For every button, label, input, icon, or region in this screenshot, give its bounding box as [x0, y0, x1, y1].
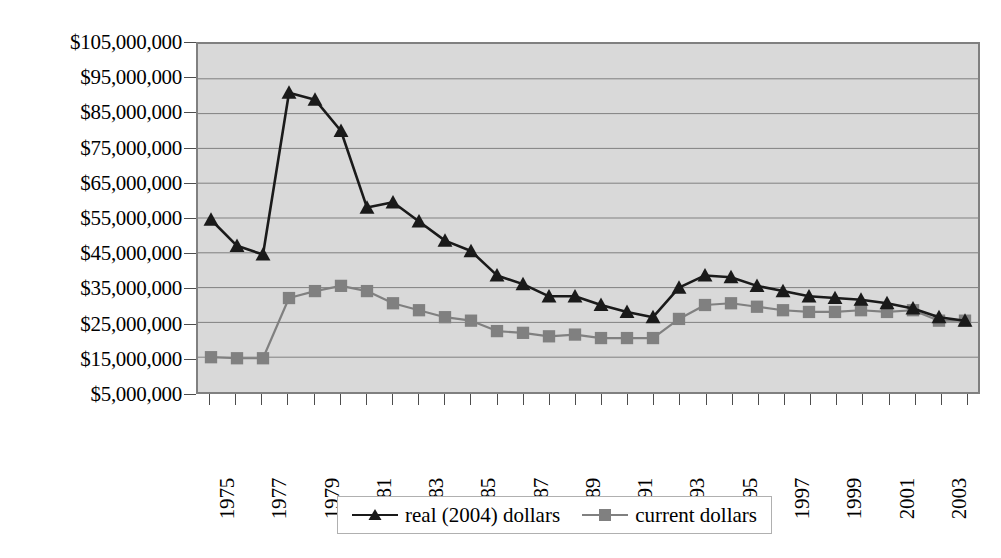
x-axis-tick-label: 2003 — [949, 478, 970, 519]
square-marker-icon — [283, 292, 295, 304]
y-axis-tick-label: $85,000,000 — [80, 102, 182, 123]
square-marker-icon — [257, 352, 269, 364]
y-axis-tick-mark — [184, 112, 196, 113]
x-axis: 1975197719791981198319851987198919911993… — [196, 406, 980, 486]
x-axis-tick-mark — [209, 394, 210, 405]
series-line — [211, 93, 965, 321]
x-axis-tick-mark — [418, 394, 419, 405]
y-axis-tick-label: $65,000,000 — [80, 172, 182, 193]
x-axis-tick-mark — [653, 394, 654, 405]
y-axis-tick-mark — [184, 77, 196, 78]
square-marker-icon — [777, 304, 789, 316]
y-axis-tick-marks — [184, 42, 196, 394]
square-marker-icon — [595, 332, 607, 344]
y-axis-tick-mark — [184, 288, 196, 289]
x-axis-tick-mark — [575, 394, 576, 405]
square-marker-icon — [699, 299, 711, 311]
square-marker-icon — [855, 304, 867, 316]
square-marker-icon — [725, 297, 737, 309]
plot-svg — [198, 44, 978, 392]
x-axis-tick-mark — [497, 394, 498, 405]
y-axis-tick-label: $5,000,000 — [90, 384, 182, 405]
x-axis-tick-mark — [235, 394, 236, 405]
y-axis-tick-mark — [184, 218, 196, 219]
square-marker-icon — [413, 304, 425, 316]
x-axis-tick-mark — [732, 394, 733, 405]
y-axis-tick-label: $95,000,000 — [80, 67, 182, 88]
y-axis-tick-mark — [184, 42, 196, 43]
x-axis-tick-mark — [810, 394, 811, 405]
square-marker-icon — [309, 285, 321, 297]
x-axis-tick-mark — [444, 394, 445, 405]
square-marker-icon — [205, 351, 217, 363]
x-axis-tick-mark — [915, 394, 916, 405]
y-axis-tick-label: $105,000,000 — [70, 32, 182, 53]
chart-legend: real (2004) dollarscurrent dollars — [337, 496, 772, 534]
square-marker-icon — [647, 332, 659, 344]
square-marker-icon — [582, 507, 628, 523]
triangle-marker-icon — [386, 195, 401, 208]
square-marker-icon — [621, 332, 633, 344]
square-marker-icon — [335, 280, 347, 292]
y-axis-tick-mark — [184, 253, 196, 254]
x-axis-tick-mark — [862, 394, 863, 405]
y-axis-tick-label: $55,000,000 — [80, 208, 182, 229]
legend-entry: current dollars — [582, 505, 757, 526]
square-marker-icon — [465, 315, 477, 327]
x-axis-tick-mark — [967, 394, 968, 405]
y-axis-tick-mark — [184, 359, 196, 360]
square-marker-icon — [231, 352, 243, 364]
x-axis-tick-mark — [549, 394, 550, 405]
x-axis-tick-mark — [706, 394, 707, 405]
y-axis-tick-label: $45,000,000 — [80, 243, 182, 264]
x-axis-tick-mark — [261, 394, 262, 405]
square-marker-icon — [673, 313, 685, 325]
x-axis-tick-mark — [287, 394, 288, 405]
x-axis-tick-mark — [941, 394, 942, 405]
y-axis-tick-mark — [184, 324, 196, 325]
legend-entry: real (2004) dollars — [352, 505, 560, 526]
x-axis-tick-mark — [340, 394, 341, 405]
x-axis-tick-mark — [314, 394, 315, 405]
x-axis-tick-label: 1977 — [269, 478, 290, 519]
x-axis-tick-mark — [392, 394, 393, 405]
triangle-marker-icon — [672, 280, 687, 293]
triangle-marker-icon — [464, 244, 479, 257]
x-axis-tick-mark — [627, 394, 628, 405]
square-marker-icon — [751, 301, 763, 313]
legend-label: current dollars — [635, 505, 757, 526]
square-marker-icon — [439, 311, 451, 323]
square-marker-icon — [569, 328, 581, 340]
y-axis-tick-label: $15,000,000 — [80, 348, 182, 369]
line-chart: $105,000,000$95,000,000$85,000,000$75,00… — [0, 0, 1001, 558]
x-axis-tick-mark — [758, 394, 759, 405]
square-marker-icon — [361, 285, 373, 297]
plot-area — [196, 42, 980, 394]
x-axis-tick-label: 1997 — [792, 478, 813, 519]
x-axis-tick-label: 1999 — [844, 478, 865, 519]
y-axis-tick-mark — [184, 183, 196, 184]
x-axis-tick-marks — [196, 394, 980, 405]
x-axis-tick-mark — [366, 394, 367, 405]
x-axis-tick-mark — [470, 394, 471, 405]
square-marker-icon — [829, 306, 841, 318]
square-marker-icon — [517, 327, 529, 339]
x-axis-tick-mark — [679, 394, 680, 405]
x-axis-tick-mark — [836, 394, 837, 405]
y-axis-tick-label: $75,000,000 — [80, 137, 182, 158]
x-axis-tick-mark — [889, 394, 890, 405]
triangle-marker-icon — [282, 85, 297, 98]
x-axis-tick-mark — [601, 394, 602, 405]
x-axis-tick-mark — [784, 394, 785, 405]
x-axis-tick-mark — [523, 394, 524, 405]
triangle-marker-icon — [204, 212, 219, 225]
triangle-marker-icon — [352, 507, 398, 523]
square-marker-icon — [491, 325, 503, 337]
legend-label: real (2004) dollars — [405, 505, 560, 526]
x-axis-tick-label: 2001 — [897, 478, 918, 519]
y-axis-tick-label: $25,000,000 — [80, 313, 182, 334]
square-marker-icon — [543, 330, 555, 342]
square-marker-icon — [387, 297, 399, 309]
y-axis-tick-label: $35,000,000 — [80, 278, 182, 299]
y-axis-tick-mark — [184, 148, 196, 149]
